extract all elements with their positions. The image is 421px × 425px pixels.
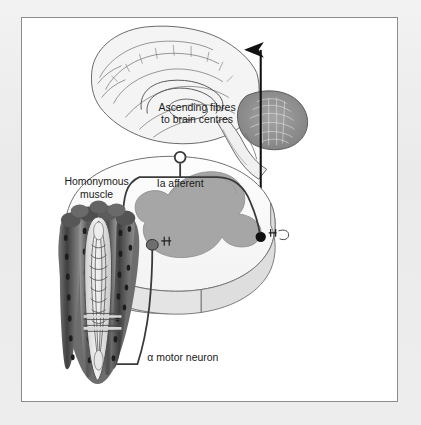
alpha-motor-neuron-label: α motor neuron: [147, 352, 218, 363]
ia-afferent-label: Ia afferent: [157, 178, 204, 189]
nuclear-bag-proximal: [94, 222, 104, 240]
ascending-fibres-label-line1: Ascending fibres: [158, 102, 235, 113]
ascending-fibres-label-line2: to brain centres: [161, 114, 233, 125]
page-background: Ascending fibres to brain centres Homony…: [0, 0, 421, 425]
reflex-arc-figure: Ascending fibres to brain centres Homony…: [22, 18, 397, 401]
nuclear-bag-distal: [94, 350, 103, 370]
figure-frame: Ascending fibres to brain centres Homony…: [21, 17, 398, 402]
homonymous-muscle-illustration: [58, 201, 139, 385]
homonymous-muscle-label-line2: muscle: [80, 189, 113, 200]
cerebellum: [237, 91, 307, 150]
cerebrum-outline: [91, 26, 259, 144]
homonymous-muscle-label-line1: Homonymous: [64, 176, 128, 187]
